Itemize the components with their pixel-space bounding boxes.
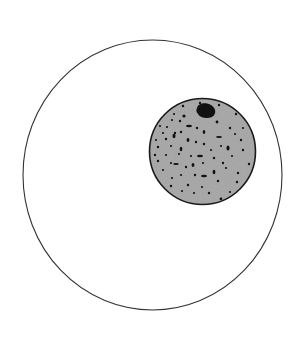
diagram-canvas bbox=[0, 0, 299, 341]
